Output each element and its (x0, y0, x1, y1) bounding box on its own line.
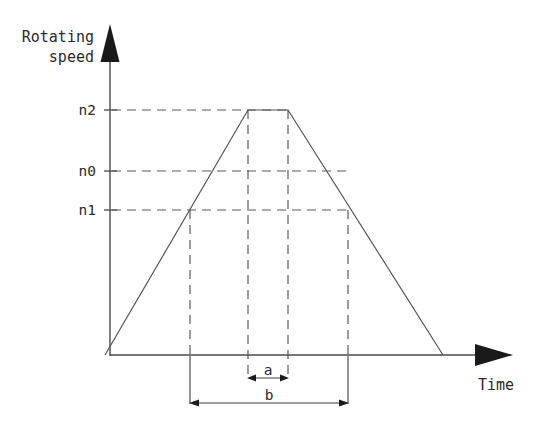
dimension-a-left-arrow-icon (247, 375, 256, 382)
up-arrow-icon (101, 24, 120, 62)
tick-label-n2: n2 (79, 102, 96, 118)
axes-group (101, 24, 514, 366)
dimension-label-a: a (264, 362, 273, 378)
labels-group: Rotating speed Time n2 n0 n1 a b (22, 28, 514, 403)
dimension-label-b: b (265, 387, 274, 403)
right-arrow-icon (475, 344, 513, 366)
y-axis-title-line1: Rotating (22, 28, 94, 46)
rotating-speed-curve (105, 110, 443, 355)
rotating-speed-time-diagram: Rotating speed Time n2 n0 n1 a b (0, 0, 535, 425)
diagram-canvas: Rotating speed Time n2 n0 n1 a b (0, 0, 535, 425)
x-axis-title: Time (478, 376, 514, 394)
tick-label-n0: n0 (79, 163, 96, 179)
y-axis-title-line2: speed (49, 48, 94, 66)
speed-profile-group (105, 110, 443, 355)
vertical-guides (190, 110, 348, 377)
dimension-a-right-arrow-icon (280, 375, 289, 382)
tick-label-n1: n1 (79, 202, 96, 218)
horizontal-guides (112, 110, 350, 210)
